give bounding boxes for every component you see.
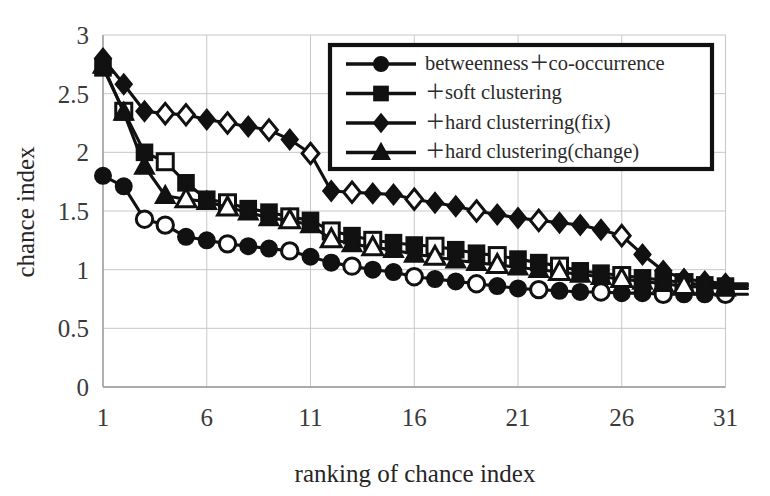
x-tick-label: 26 — [609, 404, 634, 431]
x-tick-label: 16 — [402, 404, 427, 431]
y-tick-label: 0 — [77, 374, 90, 401]
circle-marker — [551, 283, 567, 299]
circle-marker — [489, 278, 505, 294]
circle-marker — [468, 276, 484, 292]
y-tick-label: 1 — [77, 257, 90, 284]
square-marker — [157, 154, 173, 170]
circle-marker — [240, 238, 256, 254]
circle-marker — [261, 240, 277, 256]
circle-marker — [136, 211, 152, 227]
circle-marker — [427, 271, 443, 287]
y-tick-label: 3 — [77, 22, 90, 49]
legend-label: ＋soft clustering — [425, 81, 562, 104]
y-tick-label: 2.5 — [58, 81, 89, 108]
circle-marker — [385, 264, 401, 280]
circle-marker — [572, 284, 588, 300]
circle-marker — [344, 258, 360, 274]
legend-label: ＋hard clusterring(fix) — [425, 111, 611, 134]
square-marker — [374, 86, 388, 100]
y-tick-label: 1.5 — [58, 198, 89, 225]
y-tick-label: 2 — [77, 139, 90, 166]
x-tick-label: 1 — [97, 404, 110, 431]
x-tick-label: 31 — [713, 404, 738, 431]
circle-marker — [178, 229, 194, 245]
circle-marker — [219, 236, 235, 252]
chance-index-line-chart: 00.511.522.53 161116212631 betweenness＋c… — [0, 0, 770, 496]
chart-figure: 00.511.522.53 161116212631 betweenness＋c… — [0, 0, 770, 496]
circle-marker — [199, 232, 215, 248]
circle-marker — [406, 269, 422, 285]
legend-label: betweenness＋co-occurrence — [425, 52, 665, 74]
circle-marker — [510, 280, 526, 296]
circle-marker — [302, 249, 318, 265]
circle-marker — [531, 281, 547, 297]
x-tick-label: 21 — [506, 404, 531, 431]
circle-marker — [593, 284, 609, 300]
x-tick-label: 11 — [298, 404, 322, 431]
y-tick-label: 0.5 — [58, 315, 89, 342]
circle-marker — [323, 254, 339, 270]
x-tick-label: 6 — [201, 404, 214, 431]
circle-marker — [116, 178, 132, 194]
circle-marker — [95, 168, 111, 184]
chart-legend: betweenness＋co-occurrence＋soft clusterin… — [330, 45, 712, 169]
circle-marker — [365, 261, 381, 277]
x-axis-title: ranking of chance index — [295, 460, 536, 487]
circle-marker — [157, 217, 173, 233]
legend-label: ＋hard clustering(change) — [425, 140, 639, 163]
circle-marker — [374, 57, 388, 71]
y-axis-title: chance index — [12, 146, 39, 278]
circle-marker — [282, 243, 298, 259]
circle-marker — [448, 273, 464, 289]
